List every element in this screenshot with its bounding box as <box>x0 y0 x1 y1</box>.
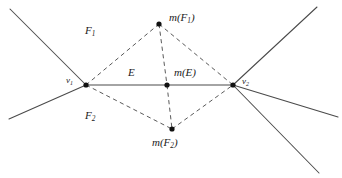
vertex-dot-v1 <box>83 82 88 87</box>
diagram-svg <box>0 0 342 178</box>
line-ray-upper-left <box>10 9 86 85</box>
dashed-v1-to-mF1 <box>86 24 159 85</box>
label-midpoint-mF1: m(F1) <box>169 12 195 26</box>
vertex-dot-mF2 <box>169 126 174 131</box>
dashed-v1-to-mF2 <box>86 85 172 129</box>
dashed-mF2-to-v2 <box>172 85 233 129</box>
vertex-dot-mF1 <box>156 21 161 26</box>
dashed-mE-to-mF2 <box>167 85 172 129</box>
vertex-dot-group <box>83 21 235 131</box>
dashed-line-group <box>86 24 233 129</box>
label-v1: v1 <box>66 76 73 87</box>
diagram-canvas: v1 v2 F1 F2 E m(E) m(F1) m(F2) <box>0 0 342 178</box>
label-midpoint-mF2: m(F2) <box>152 137 178 151</box>
label-face-F1: F1 <box>85 25 95 39</box>
vertex-dot-mE <box>164 82 169 87</box>
label-edge-E: E <box>128 67 135 78</box>
line-ray-lower-left <box>9 85 86 119</box>
dashed-mF1-to-v2 <box>159 24 233 85</box>
label-v2: v2 <box>242 77 249 88</box>
dashed-mF1-to-mE <box>159 24 167 85</box>
vertex-dot-v2 <box>230 82 235 87</box>
label-midpoint-mE: m(E) <box>174 67 196 78</box>
label-face-F2: F2 <box>85 110 95 124</box>
line-ray-upper-right <box>233 7 317 85</box>
